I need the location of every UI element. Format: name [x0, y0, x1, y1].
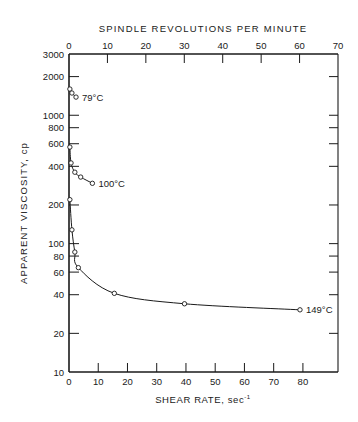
- data-point-marker: [70, 228, 74, 232]
- y-tick-label: 60: [53, 267, 64, 278]
- data-point-marker: [78, 175, 82, 179]
- x-tick-label: 60: [239, 376, 250, 387]
- y-tick-label: 100: [48, 238, 64, 249]
- x-tick-label: 40: [181, 376, 192, 387]
- series-label: 100°C: [98, 178, 125, 189]
- data-point-marker: [68, 197, 72, 201]
- x2-tick-label: 10: [102, 40, 113, 51]
- y-tick-label: 400: [48, 161, 64, 172]
- x2-tick-label: 0: [66, 40, 71, 51]
- x2-tick-label: 50: [256, 40, 267, 51]
- plot-frame: [69, 54, 338, 372]
- x-tick-label: 50: [210, 376, 221, 387]
- x-tick-label: 80: [298, 376, 309, 387]
- x-axis-title-superscript: -1: [244, 394, 251, 400]
- y-tick-label: 20: [53, 328, 64, 339]
- x2-axis-title: SPINDLE REVOLUTIONS PER MINUTE: [99, 23, 308, 34]
- x-tick-label: 30: [151, 376, 162, 387]
- data-point-marker: [90, 181, 94, 185]
- y-tick-label: 10: [53, 367, 64, 378]
- data-point-marker: [68, 145, 72, 149]
- data-point-marker: [69, 161, 73, 165]
- x-axis-title-text: SHEAR RATE, sec: [155, 394, 244, 405]
- x2-axis-ticks: 010203040506070: [66, 40, 343, 63]
- data-curves: 79°C100°C149°C: [68, 87, 333, 315]
- data-point-marker: [73, 170, 77, 174]
- data-point-marker: [70, 91, 74, 95]
- x-tick-label: 20: [122, 376, 133, 387]
- x-axis-ticks: 01020304050607080: [66, 363, 308, 387]
- y-tick-label: 600: [48, 138, 64, 149]
- y-axis-title: APPARENT VISCOSITY, cp: [18, 142, 29, 284]
- y-tick-label: 1000: [43, 110, 64, 121]
- data-point-marker: [298, 308, 302, 312]
- data-point-marker: [73, 250, 77, 254]
- series-label: 149°C: [306, 304, 333, 315]
- x-tick-label: 0: [66, 376, 71, 387]
- y-tick-label: 2000: [43, 71, 64, 82]
- y-tick-label: 40: [53, 289, 64, 300]
- series-label: 79°C: [82, 92, 103, 103]
- x2-tick-label: 30: [179, 40, 190, 51]
- y-tick-label: 800: [48, 122, 64, 133]
- x-tick-label: 70: [268, 376, 279, 387]
- data-point-marker: [182, 302, 186, 306]
- data-point-marker: [112, 291, 116, 295]
- x2-tick-label: 40: [217, 40, 228, 51]
- x-axis-title: SHEAR RATE, sec-1: [155, 394, 251, 405]
- y-axis-right-ticks: [329, 77, 338, 334]
- x2-tick-label: 60: [294, 40, 305, 51]
- series-100c: 100°C: [68, 145, 125, 189]
- data-point-marker: [74, 95, 78, 99]
- y-tick-label: 3000: [43, 49, 64, 60]
- viscosity-chart: 3000200010008006004002001008060402010 01…: [0, 0, 358, 422]
- x-tick-label: 10: [93, 376, 104, 387]
- y-tick-label: 200: [48, 199, 64, 210]
- series-149c: 149°C: [68, 197, 333, 315]
- x2-tick-label: 70: [333, 40, 344, 51]
- x2-tick-label: 20: [141, 40, 152, 51]
- series-line: [70, 200, 300, 310]
- data-point-marker: [76, 265, 80, 269]
- series-79c: 79°C: [68, 87, 104, 103]
- y-tick-label: 80: [53, 251, 64, 262]
